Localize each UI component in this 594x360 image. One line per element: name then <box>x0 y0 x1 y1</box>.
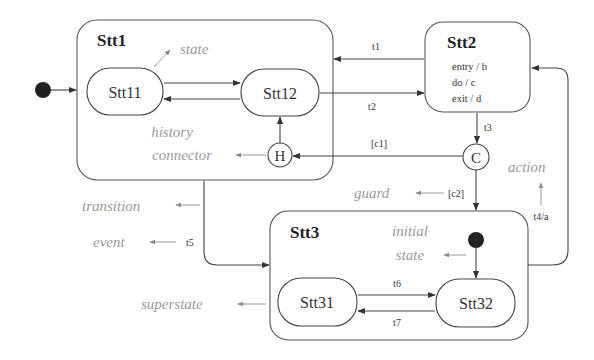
t3-label: t3 <box>484 122 492 133</box>
c2-label: [c2] <box>448 188 464 199</box>
t4a-label: t4/a <box>534 211 550 222</box>
state-stt11[interactable]: Stt11 <box>87 68 163 115</box>
t6-label: t6 <box>393 278 401 289</box>
annotation-event: event <box>93 234 125 250</box>
initial-state-dot <box>35 82 51 98</box>
annotation-guard: guard <box>354 185 390 201</box>
history-connector-label: H <box>275 148 286 164</box>
stt2-action-exit: exit / d <box>452 93 482 104</box>
state-stt32[interactable]: Stt32 <box>436 279 515 327</box>
condition-connector[interactable]: C <box>463 144 489 170</box>
annotation-initial-line1: initial <box>392 223 428 239</box>
transition-t5 <box>204 181 269 265</box>
stt3-title: Stt3 <box>290 223 319 242</box>
state-stt31[interactable]: Stt31 <box>278 278 357 326</box>
stt1-title: Stt1 <box>97 31 126 50</box>
state-stt2[interactable]: Stt2 entry / b do / c exit / d <box>425 22 530 112</box>
stt12-label: Stt12 <box>263 85 297 102</box>
annotation-history-line2: connector <box>152 147 212 163</box>
c1-label: [c1] <box>371 138 387 149</box>
stt3-initial-dot <box>468 232 484 248</box>
annotation-action: action <box>508 159 546 175</box>
stt2-action-do: do / c <box>452 77 476 88</box>
t2-label: t2 <box>368 101 376 112</box>
statechart-diagram: Stt1 Stt11 Stt12 state H history connect… <box>0 0 594 360</box>
annotation-initial-line2: state <box>396 247 425 263</box>
annotation-transition: transition <box>82 198 140 214</box>
t5-label: t5 <box>186 237 194 248</box>
state-stt12[interactable]: Stt12 <box>241 69 319 116</box>
history-connector[interactable]: H <box>268 143 292 167</box>
stt31-label: Stt31 <box>300 294 334 311</box>
annotation-superstate: superstate <box>141 296 203 312</box>
annotation-history-line1: history <box>151 124 193 140</box>
annotation-state: state <box>180 41 209 57</box>
stt2-action-entry: entry / b <box>452 61 487 72</box>
condition-connector-label: C <box>471 150 481 166</box>
stt32-label: Stt32 <box>459 295 493 312</box>
t7-label: t7 <box>393 317 401 328</box>
stt2-title: Stt2 <box>447 33 476 52</box>
stt11-label: Stt11 <box>108 84 141 101</box>
t1-label: t1 <box>372 41 380 52</box>
